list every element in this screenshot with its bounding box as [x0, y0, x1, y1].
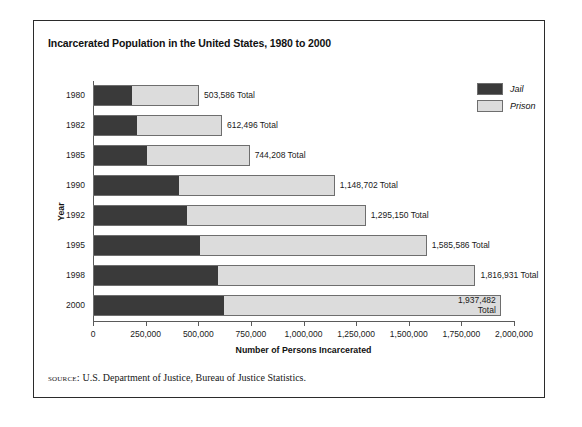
- stacked-bar[interactable]: 1980503,586 Total: [93, 85, 199, 106]
- x-axis-tick-label: 0: [91, 329, 96, 339]
- bar-row: 1985744,208 Total: [93, 145, 514, 166]
- bar-total-label: 744,208 Total: [255, 150, 306, 160]
- bar-segment-jail: [94, 296, 224, 315]
- stacked-bar[interactable]: 19901,148,702 Total: [93, 175, 335, 196]
- source-text: U.S. Department of Justice, Bureau of Ju…: [82, 372, 306, 383]
- source-label: source:: [48, 372, 80, 383]
- x-axis-tick-label: 750,000: [236, 329, 267, 339]
- bar-row: 19981,816,931 Total: [93, 265, 514, 286]
- bar-row: 1982612,496 Total: [93, 115, 514, 136]
- bar-row: 1980503,586 Total: [93, 85, 514, 106]
- bar-row: 19951,585,586 Total: [93, 235, 514, 256]
- x-axis-tick-label: 1,750,000: [442, 329, 480, 339]
- bar-segment-prison: [147, 146, 248, 165]
- stacked-bar[interactable]: 1985744,208 Total: [93, 145, 250, 166]
- stacked-bar[interactable]: 19981,816,931 Total: [93, 265, 475, 286]
- x-axis-tick-label: 2,000,000: [495, 329, 533, 339]
- legend-swatch: [477, 100, 503, 112]
- y-axis-tick-label: 1990: [66, 180, 85, 190]
- legend-label: Jail: [510, 84, 524, 94]
- plot-area: 1980503,586 Total1982612,496 Total198574…: [93, 81, 514, 321]
- x-axis-tick: [514, 321, 515, 326]
- y-axis-tick-label: 1980: [66, 90, 85, 100]
- bar-segment-jail: [94, 236, 200, 255]
- y-axis-tick-label: 1982: [66, 120, 85, 130]
- bar-segment-prison: [179, 176, 334, 195]
- y-axis-tick-label: 1998: [66, 270, 85, 280]
- bar-total-label: 612,496 Total: [227, 120, 278, 130]
- legend-item[interactable]: Prison: [477, 100, 536, 112]
- y-axis-tick-label: 1985: [66, 150, 85, 160]
- bar-segment-prison: [218, 266, 474, 285]
- stacked-bar[interactable]: 19951,585,586 Total: [93, 235, 427, 256]
- stacked-bar[interactable]: 19921,295,150 Total: [93, 205, 366, 226]
- x-axis-tick: [356, 321, 357, 326]
- x-axis-tick: [409, 321, 410, 326]
- x-axis-tick: [304, 321, 305, 326]
- x-axis-tick: [146, 321, 147, 326]
- x-axis-tick-label: 1,250,000: [337, 329, 375, 339]
- x-axis-tick-label: 500,000: [183, 329, 214, 339]
- bar-segment-jail: [94, 86, 132, 105]
- bar-segment-prison: [137, 116, 221, 135]
- x-axis-tick: [93, 321, 94, 326]
- x-axis-tick-label: 250,000: [130, 329, 161, 339]
- bar-row: 19921,295,150 Total: [93, 205, 514, 226]
- legend-item[interactable]: Jail: [477, 83, 536, 95]
- x-axis-tick: [251, 321, 252, 326]
- x-axis-tick: [198, 321, 199, 326]
- y-axis-title: Year: [56, 202, 66, 221]
- bar-segment-prison: [187, 206, 365, 225]
- bar-total-label: 1,816,931 Total: [480, 270, 538, 280]
- legend-label: Prison: [510, 101, 536, 111]
- x-axis-tick-label: 1,500,000: [390, 329, 428, 339]
- y-axis-tick-label: 1995: [66, 240, 85, 250]
- bar-total-label: 1,937,482 Total: [444, 295, 496, 315]
- source-note: source: U.S. Department of Justice, Bure…: [48, 372, 306, 383]
- bar-total-label: 1,148,702 Total: [340, 180, 398, 190]
- x-axis-title: Number of Persons Incarcerated: [93, 345, 514, 355]
- bar-segment-jail: [94, 116, 137, 135]
- bar-segment-jail: [94, 176, 179, 195]
- y-axis-tick-label: 1992: [66, 210, 85, 220]
- figure-frame: Incarcerated Population in the United St…: [33, 20, 545, 398]
- legend-swatch: [477, 83, 503, 95]
- bar-segment-jail: [94, 206, 187, 225]
- bar-total-label: 1,585,586 Total: [432, 240, 490, 250]
- x-axis-tick-label: 1,000,000: [285, 329, 323, 339]
- stacked-bar[interactable]: 20001,937,482 Total: [93, 295, 501, 316]
- bar-segment-prison: [132, 86, 198, 105]
- bar-segment-prison: [200, 236, 426, 255]
- stacked-bar[interactable]: 1982612,496 Total: [93, 115, 222, 136]
- bar-total-label: 1,295,150 Total: [371, 210, 429, 220]
- bar-row: 19901,148,702 Total: [93, 175, 514, 196]
- bar-total-label: 503,586 Total: [204, 90, 255, 100]
- x-axis-tick: [461, 321, 462, 326]
- bar-segment-jail: [94, 146, 147, 165]
- chart-title: Incarcerated Population in the United St…: [48, 37, 331, 49]
- chart-legend: JailPrison: [477, 83, 536, 117]
- bar-row: 20001,937,482 Total: [93, 295, 514, 316]
- y-axis-tick-label: 2000: [66, 300, 85, 310]
- bar-segment-jail: [94, 266, 218, 285]
